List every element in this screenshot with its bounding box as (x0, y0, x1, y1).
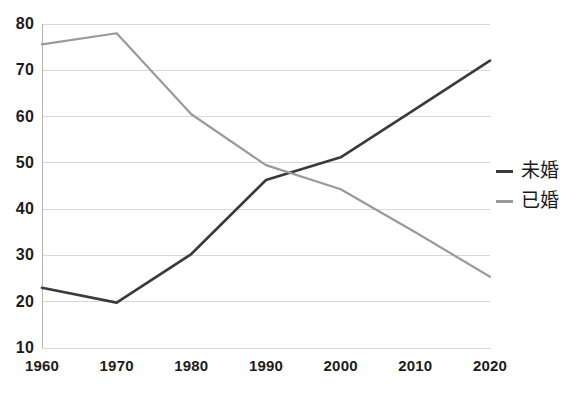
x-tick-label: 2010 (380, 358, 450, 374)
line-chart: 1020304050607080 19601970198019902000201… (0, 0, 578, 394)
plot-area (0, 0, 578, 394)
y-tick-label: 50 (0, 155, 34, 171)
x-tick-label: 1980 (156, 358, 226, 374)
y-tick-label: 10 (0, 340, 34, 356)
legend-label-married: 已婚 (521, 190, 559, 212)
x-tick-label: 1960 (7, 358, 77, 374)
x-tick-label: 1990 (231, 358, 301, 374)
y-tick-label: 40 (0, 201, 34, 217)
y-tick-label: 70 (0, 62, 34, 78)
x-tick-label: 2020 (455, 358, 525, 374)
series-line-married (42, 33, 490, 276)
legend-item-married[interactable]: 已婚 (496, 186, 578, 216)
y-tick-label: 30 (0, 247, 34, 263)
x-tick-label: 2000 (306, 358, 376, 374)
y-tick-label: 80 (0, 16, 34, 32)
legend-item-unmarried[interactable]: 未婚 (496, 156, 578, 186)
y-tick-label: 20 (0, 294, 34, 310)
y-tick-label: 60 (0, 109, 34, 125)
legend-dash-icon-unmarried (496, 170, 513, 173)
legend-dash-icon-married (496, 200, 513, 203)
series-lines (42, 33, 490, 302)
x-tick-label: 1970 (82, 358, 152, 374)
legend-label-unmarried: 未婚 (521, 160, 559, 182)
chart-legend: 未婚 已婚 (496, 156, 578, 216)
gridlines (42, 24, 490, 348)
series-line-unmarried (42, 61, 490, 303)
